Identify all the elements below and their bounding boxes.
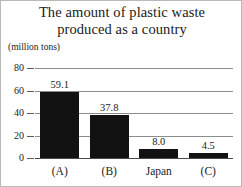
y-axis-tick — [27, 91, 34, 92]
bar — [139, 149, 178, 158]
y-axis-tick — [27, 68, 34, 69]
y-axis-tick-label: 20 — [14, 131, 24, 141]
bar-value-label: 37.8 — [79, 102, 139, 113]
chart-title-line-2: produced as a country — [1, 21, 242, 38]
x-axis-category-label: (C) — [173, 165, 242, 178]
plot-area: 020406080 59.137.88.04.5 (A)(B)Japan(C) — [35, 61, 233, 161]
bar — [90, 115, 129, 158]
y-axis-tick — [27, 158, 34, 159]
chart-title: The amount of plastic waste produced as … — [1, 4, 242, 37]
gridline — [35, 68, 233, 69]
y-axis-tick — [27, 136, 34, 137]
y-axis-tick — [27, 113, 34, 114]
bar-value-label: 4.5 — [178, 140, 238, 151]
bar-value-label: 59.1 — [30, 79, 90, 90]
y-axis-tick-label: 60 — [14, 86, 24, 96]
y-axis-tick-label: 80 — [14, 63, 24, 73]
chart-figure: The amount of plastic waste produced as … — [0, 0, 242, 187]
y-axis-unit-label: (million tons) — [8, 42, 60, 53]
bar — [189, 153, 228, 158]
axis-baseline — [35, 158, 233, 159]
bar — [40, 92, 79, 158]
chart-title-line-1: The amount of plastic waste — [1, 4, 242, 21]
y-axis-tick-label: 40 — [14, 108, 24, 118]
y-axis-tick-label: 0 — [19, 153, 24, 163]
